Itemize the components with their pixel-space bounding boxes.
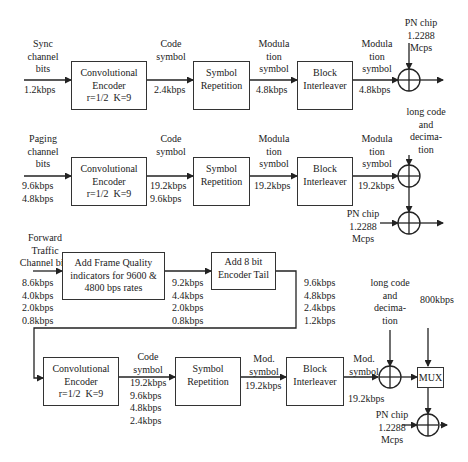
paging-code-symbol-label: Code symbol [148,133,194,158]
paging-input-label: Paging channel bits [18,133,68,171]
add-frame-quality-indicators: Add Frame Quality indicators for 9600 & … [62,252,165,300]
sync-mod-rate-1: 4.8kbps [256,84,287,97]
paging-pn-chip-label: PN chip 1.2288 Mcps [343,208,383,246]
paging-mod-rate-2: 19.2kbps [358,180,394,193]
paging-input-rate: 9.6kbps 4.8kbps [22,180,53,205]
paging-long-code-label: long code and decima- tion [396,106,456,156]
traffic-input-rate: 8.6kbps 4.0kbps 2.0kbps 0.8kbps [22,277,53,327]
xor-sync [398,69,420,91]
sync-mod-rate-2: 4.8kbps [359,84,390,97]
paging-mod-symbol-label-1: Modula tion symbol [252,133,296,171]
add-encoder-tail: Add 8 bit Encoder Tail [211,252,276,290]
paging-block-interleaver: Block Interleaver [297,157,353,206]
traffic-block-interleaver: Block Interleaver [286,357,344,406]
sync-mod-symbol-label-2: Modula tion symbol [355,38,399,76]
sync-code-symbol-label: Code symbol [148,38,194,63]
mux-block: MUX [417,367,444,388]
xor-paging-pn [398,212,420,234]
sync-mod-symbol-label-1: Modula tion symbol [252,38,296,76]
traffic-convolutional-encoder: Convolutional Encoder r=1/2 K=9 [43,357,119,406]
traffic-mod-symbol-label-1: Mod. symbol [244,353,284,378]
traffic-long-code-label: long code and decima- tion [362,277,418,327]
paging-mod-symbol-label-2: Modula tion symbol [355,133,399,171]
paging-code-rate: 19.2kbps 9.6kbps [150,180,186,205]
traffic-mod-rate-2: 19.2kbps [348,393,384,406]
xor-traffic-pn [417,414,439,436]
traffic-encoder-tail-rate: 9.6kbps 4.8kbps 2.4kbps 1.2kbps [304,277,335,327]
paging-symbol-repetition: Symbol Repetition [193,157,250,206]
sync-pn-chip-label: PN chip 1.2288 Mcps [398,17,444,55]
power-control-rate: 800kbps [412,294,462,307]
sync-symbol-repetition: Symbol Repetition [193,61,250,110]
sync-convolutional-encoder: Convolutional Encoder r=1/2 K=9 [71,61,147,110]
paging-convolutional-encoder: Convolutional Encoder r=1/2 K=9 [71,157,147,206]
traffic-mod-rate-1: 19.2kbps [245,380,281,393]
traffic-frame-quality-rate: 9.2kbps 4.4kbps 2.0kbps 0.8kbps [172,277,203,327]
sync-input-rate: 1.2kbps [24,84,55,97]
paging-mod-rate-1: 19.2kbps [254,180,290,193]
forward-channel-block-diagram: Sync channel bits 1.2kbps Convolutional … [0,0,468,462]
traffic-code-symbol-label: Code symbol [126,351,170,376]
sync-block-interleaver: Block Interleaver [297,61,353,110]
traffic-mod-symbol-label-2: Mod. symbol [344,353,384,378]
traffic-symbol-repetition: Symbol Repetition [175,357,241,406]
sync-code-rate: 2.4kbps [154,84,185,97]
traffic-code-rate: 19.2kbps 9.6kbps 4.8kbps 2.4kbps [130,377,166,427]
xor-paging-longcode [398,165,420,187]
sync-input-label: Sync channel bits [18,38,68,76]
traffic-pn-chip-label: PN chip 1.2288 Mcps [372,409,412,447]
